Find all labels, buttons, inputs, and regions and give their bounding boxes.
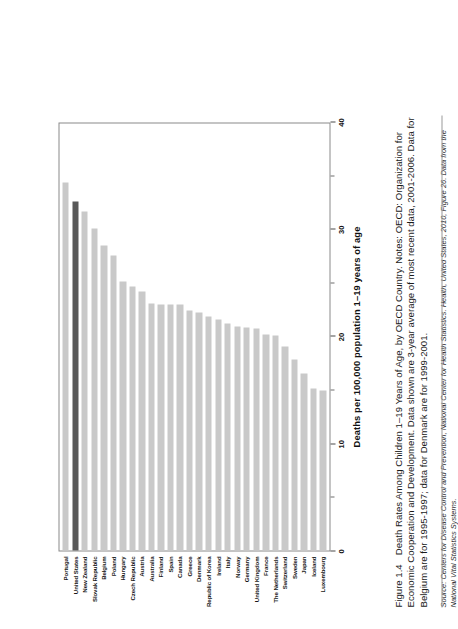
axis-tick-minor — [330, 496, 334, 497]
bar — [224, 323, 230, 550]
bar-row — [205, 123, 211, 550]
figure-caption: Figure 1.4Death Rates Among Children 1–1… — [392, 115, 429, 607]
bar-row — [310, 123, 316, 550]
category-label: Luxembourg — [319, 553, 325, 607]
category-label: Switzerland — [281, 553, 287, 607]
axis-tick-label: 0 — [336, 549, 345, 553]
bar — [148, 303, 154, 550]
bar-row — [176, 123, 182, 550]
bar — [319, 390, 325, 550]
category-label: Czech Republic — [129, 553, 135, 607]
category-label: Belgium — [100, 553, 106, 607]
bar-row — [253, 123, 259, 550]
category-label: Italy — [224, 553, 230, 607]
axis-tick-label: 10 — [336, 440, 345, 448]
bar-row — [138, 123, 144, 550]
category-label: Poland — [110, 553, 116, 607]
bar — [281, 346, 287, 550]
category-label: Austria — [138, 553, 144, 607]
bar-row — [215, 123, 221, 550]
bar — [272, 335, 278, 550]
category-label: United Kingdom — [253, 553, 259, 607]
bar-highlight — [72, 201, 78, 550]
bar — [243, 327, 249, 550]
bar-row — [243, 123, 249, 550]
bar — [234, 326, 240, 550]
axis-tick-major — [330, 121, 335, 122]
bar — [119, 281, 125, 550]
bar — [310, 388, 316, 550]
category-axis-labels: PortugalUnited StatesNew ZealandSlovak R… — [59, 553, 329, 607]
bar-row — [300, 123, 306, 550]
category-label: New Zealand — [81, 553, 87, 607]
bar — [291, 359, 297, 550]
category-label: Ireland — [215, 553, 221, 607]
category-label: Norway — [234, 553, 240, 607]
bar-row — [186, 123, 192, 550]
bar-row — [148, 123, 154, 550]
category-label: Slovak Republic — [91, 553, 97, 607]
caption-block: Figure 1.4Death Rates Among Children 1–1… — [392, 115, 458, 607]
bar-row — [129, 123, 135, 550]
category-label: Finland — [157, 553, 163, 607]
category-label: Hungary — [119, 553, 125, 607]
axis-tick-minor — [330, 389, 334, 390]
bar-row — [262, 123, 268, 550]
bar-row — [319, 123, 325, 550]
category-label: France — [262, 553, 268, 607]
axis-tick-major — [330, 228, 335, 229]
bar — [167, 304, 173, 550]
axis-tick-label: 20 — [336, 332, 345, 340]
bar-row — [72, 123, 78, 550]
category-label: The Netherlands — [272, 553, 278, 607]
axis-tick-major — [330, 336, 335, 337]
bar-row — [100, 123, 106, 550]
figure-number: Figure 1.4 — [392, 564, 403, 607]
bar-row — [81, 123, 87, 550]
bar — [62, 182, 68, 550]
category-label: Iceland — [310, 553, 316, 607]
category-label: Canada — [176, 553, 182, 607]
bar-row — [62, 123, 68, 550]
bar-row — [234, 123, 240, 550]
bar — [110, 255, 116, 550]
bar-row — [157, 123, 163, 550]
bar — [205, 316, 211, 550]
bar — [253, 328, 259, 550]
bar-row — [281, 123, 287, 550]
chart-plot-block: PortugalUnited StatesNew ZealandSlovak R… — [58, 120, 364, 607]
bar-row — [291, 123, 297, 550]
category-label: Greece — [186, 553, 192, 607]
bar-row — [195, 123, 201, 550]
category-label: Japan — [300, 553, 306, 607]
axis-tick-major — [330, 443, 335, 444]
bar-row — [167, 123, 173, 550]
category-label: Sweden — [291, 553, 297, 607]
category-label: Spain — [167, 553, 173, 607]
category-label: United States — [72, 553, 78, 607]
bar — [129, 286, 135, 550]
category-label: Australia — [148, 553, 154, 607]
axis-tick-minor — [330, 175, 334, 176]
axis-tick-label: 40 — [336, 118, 345, 126]
bar-row — [272, 123, 278, 550]
bar — [176, 304, 182, 550]
category-label: Denmark — [195, 553, 201, 607]
bar-row — [224, 123, 230, 550]
bar — [195, 312, 201, 550]
axis-tick-major — [330, 550, 335, 551]
bar — [300, 373, 306, 550]
bar — [186, 310, 192, 550]
bar — [157, 304, 163, 550]
bar-row — [119, 123, 125, 550]
bar — [91, 228, 97, 550]
bar-series — [59, 123, 329, 550]
bar — [215, 319, 221, 550]
category-label: Portugal — [62, 553, 68, 607]
value-axis-title: Deaths per 100,000 population 1–19 years… — [350, 122, 361, 551]
bar-row — [91, 123, 97, 550]
bar — [262, 334, 268, 550]
axis-tick-label: 30 — [336, 225, 345, 233]
